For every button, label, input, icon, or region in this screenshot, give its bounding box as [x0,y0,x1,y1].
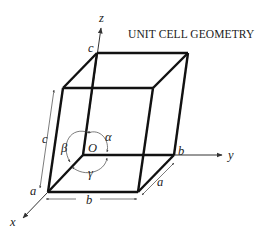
edge-label-a-left: a [30,185,36,198]
angle-label-beta: β [61,142,67,155]
origin-label: O [88,142,97,155]
edge-label-b-axis: b [178,145,184,158]
axes [23,28,222,218]
edge-label-c-top: c [88,42,94,55]
edge-label-b-bottom: b [86,194,92,207]
diagram-title: UNIT CELL GEOMETRY [128,28,254,40]
cell-edges [48,53,188,192]
angle-label-alpha: α [105,131,112,144]
angle-label-gamma: γ [88,167,93,180]
edge-label-c-left: c [42,133,48,146]
x-axis-label: x [10,216,16,229]
y-axis-label: y [228,149,234,162]
z-axis-label: z [99,12,104,25]
edge-label-a-right: a [157,176,163,189]
